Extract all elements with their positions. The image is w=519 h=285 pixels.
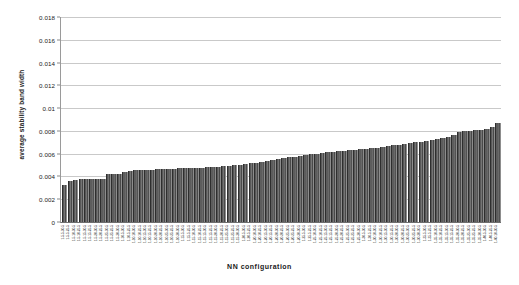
x-tick-label: 1-30-30-30-5 (418, 225, 422, 243)
x-tick-label: 1-30-15-30-5 (386, 225, 390, 243)
x-tick-label: 1-20-20-25-5 (281, 225, 285, 243)
x-tick-label: 1-5-5-25-5 (67, 225, 71, 239)
x-tick-label: 1-15-15-30-5 (205, 225, 209, 243)
y-tick-label: 0.01 (43, 105, 55, 112)
x-tick-label: 1-5-25-25-5 (111, 225, 115, 241)
x-tick-label: 1-15-30-30-5 (237, 225, 241, 243)
x-tick-label: 1-10-20-25-5 (161, 225, 165, 243)
x-tick-label: 1-10-5-30-5 (122, 225, 126, 241)
bar-series (61, 17, 501, 222)
y-tick-label: 0.016 (39, 36, 55, 43)
y-tick-label: 0.018 (39, 14, 55, 21)
x-tick-label: 1-30-20-30-5 (396, 225, 400, 243)
y-tick-label: 0.008 (39, 127, 55, 134)
x-tick-label: 1-15-5-30-5 (183, 225, 187, 241)
x-tick-label: 1-30-10-25-5 (380, 225, 384, 243)
x-tick-label: 1-15-5-25-5 (188, 225, 192, 241)
x-tick-label: 1-5-10-30-5 (73, 225, 77, 241)
x-tick-label: 1-35-5-25-5 (429, 225, 433, 241)
x-tick-label: 1-25-20-25-5 (342, 225, 346, 243)
x-tick-label: 1-25-5-30-5 (303, 225, 307, 241)
x-tick-label: 1-30-10-30-5 (375, 225, 379, 243)
x-tick-label: 1-30-20-25-5 (402, 225, 406, 243)
y-tick-label: 0 (51, 219, 55, 226)
x-tick-label: 1-5-25-30-5 (106, 225, 110, 241)
y-tick-label: 0.012 (39, 82, 55, 89)
x-tick-label: 1-25-5-25-5 (309, 225, 313, 241)
x-tick-label: 1-35-25-30-5 (468, 225, 472, 243)
x-tick-label: 1-20-25-25-5 (292, 225, 296, 243)
x-tick-label: 1-5-15-30-5 (84, 225, 88, 241)
x-tick-label: 1-15-10-25-5 (199, 225, 203, 243)
x-tick-label: 1-20-20-30-5 (276, 225, 280, 243)
x-tick-label: 1-40-5-25-5 (490, 225, 494, 241)
x-tick-label: 1-10-10-30-5 (133, 225, 137, 243)
x-tick-label: 1-40-5-30-5 (484, 225, 488, 241)
x-tick-label: 1-20-15-25-5 (270, 225, 274, 243)
x-tick-label: 1-10-25-30-5 (166, 225, 170, 243)
x-tick-label: 1-25-25-25-5 (353, 225, 357, 243)
x-tick-label: 1-20-5-30-5 (243, 225, 247, 241)
x-tick-label: 1-20-5-25-5 (248, 225, 252, 241)
x-tick-label: 1-10-15-25-5 (150, 225, 154, 243)
x-tick-label: 1-5-15-25-5 (89, 225, 93, 241)
x-tick-label: 1-35-15-30-5 (446, 225, 450, 243)
y-axis-tick-labels: 00.0020.0040.0060.0080.010.0120.0140.016… (0, 0, 60, 240)
x-tick-label: 1-5-30-30-5 (117, 225, 121, 241)
x-slot: 1-40-10-30-5 (494, 224, 499, 262)
x-tick-label: 1-20-30-30-5 (298, 225, 302, 243)
x-tick-label: 1-35-20-25-5 (462, 225, 466, 243)
x-axis-title: NN configuration (0, 263, 519, 270)
x-tick-label: 1-25-30-30-5 (358, 225, 362, 243)
x-tick-label: 1-35-30-30-5 (479, 225, 483, 243)
x-tick-label: 1-30-5-30-5 (364, 225, 368, 241)
x-tick-label: 1-10-30-30-5 (177, 225, 181, 243)
x-tick-label: 1-25-20-30-5 (336, 225, 340, 243)
bar-chart: average stability band width 00.0020.004… (0, 0, 519, 285)
x-tick-label: 1-15-25-25-5 (232, 225, 236, 243)
x-tick-label: 1-35-5-30-5 (424, 225, 428, 241)
y-tick-label: 0.004 (39, 173, 55, 180)
x-axis-tick-labels: 1-5-5-30-51-5-5-25-51-5-10-30-51-5-10-25… (60, 224, 500, 262)
x-tick-label: 1-30-25-30-5 (407, 225, 411, 243)
x-tick-label: 1-20-25-30-5 (287, 225, 291, 243)
x-tick-label: 1-15-15-25-5 (210, 225, 214, 243)
y-tick-label: 0.002 (39, 196, 55, 203)
x-tick-label: 1-20-10-25-5 (259, 225, 263, 243)
x-tick-label: 1-5-20-25-5 (100, 225, 104, 241)
x-tick-label: 1-10-25-25-5 (172, 225, 176, 243)
x-tick-label: 1-10-10-25-5 (139, 225, 143, 243)
plot-area (60, 17, 501, 223)
x-tick-label: 1-35-10-30-5 (435, 225, 439, 243)
x-tick-label: 1-10-5-25-5 (128, 225, 132, 241)
x-tick-label: 1-35-15-25-5 (451, 225, 455, 243)
x-tick-label: 1-25-25-30-5 (347, 225, 351, 243)
x-tick-label: 1-15-20-25-5 (221, 225, 225, 243)
x-tick-label: 1-5-10-25-5 (78, 225, 82, 241)
x-tick-label: 1-15-25-30-5 (226, 225, 230, 243)
x-tick-label: 1-20-15-30-5 (265, 225, 269, 243)
x-tick-label: 1-30-15-25-5 (391, 225, 395, 243)
x-tick-label: 1-30-25-25-5 (413, 225, 417, 243)
x-tick-label: 1-35-20-30-5 (457, 225, 461, 243)
x-tick-label: 1-15-20-30-5 (216, 225, 220, 243)
x-tick-label: 1-25-15-25-5 (331, 225, 335, 243)
y-tick-label: 0.006 (39, 150, 55, 157)
x-tick-label: 1-15-10-30-5 (194, 225, 198, 243)
x-tick-label: 1-35-10-25-5 (440, 225, 444, 243)
x-tick-label: 1-25-10-30-5 (314, 225, 318, 243)
y-tick-label: 0.014 (39, 59, 55, 66)
x-tick-label: 1-5-20-30-5 (95, 225, 99, 241)
x-tick-label: 1-25-10-25-5 (320, 225, 324, 243)
bar (495, 123, 500, 222)
x-tick-label: 1-30-5-25-5 (369, 225, 373, 241)
x-tick-label: 1-40-10-30-5 (495, 225, 499, 243)
x-tick-label: 1-35-25-25-5 (473, 225, 477, 243)
bar-slot (495, 17, 500, 222)
x-tick-label: 1-20-10-30-5 (254, 225, 258, 243)
x-tick-label: 1-5-5-30-5 (62, 225, 66, 239)
